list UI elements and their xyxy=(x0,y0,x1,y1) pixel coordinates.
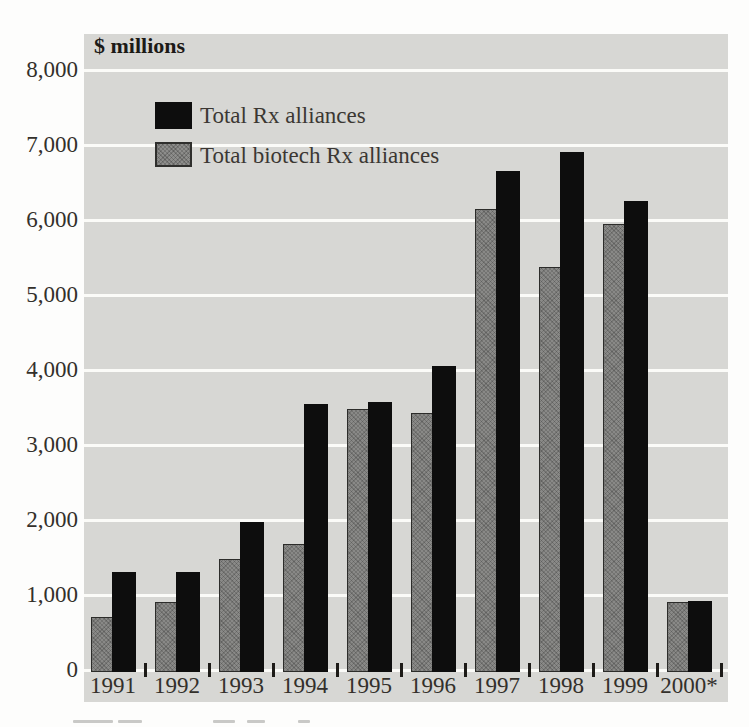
x-tick-label-1993: 1993 xyxy=(206,673,276,699)
cropped-text-fragment-3 xyxy=(247,720,265,723)
bar-total-rx-1991 xyxy=(112,572,136,672)
bar-biotech-rx-1995 xyxy=(347,409,369,672)
x-tick-label-1994: 1994 xyxy=(270,673,340,699)
bar-total-rx-1997 xyxy=(496,171,520,672)
y-tick-label-7000: 7,000 xyxy=(8,133,78,157)
y-tick-label-6000: 6,000 xyxy=(8,208,78,232)
x-tick-label-1999: 1999 xyxy=(590,673,660,699)
bar-total-rx-1994 xyxy=(304,404,328,672)
cropped-text-fragment-1 xyxy=(118,720,142,723)
bar-biotech-rx-1999 xyxy=(603,224,625,672)
bar-biotech-rx-1993 xyxy=(219,559,241,672)
legend-swatch-total-rx-icon xyxy=(155,102,192,129)
bar-biotech-rx-1997 xyxy=(475,209,497,672)
x-tick-label-1995: 1995 xyxy=(334,673,404,699)
legend-label-biotech-rx: Total biotech Rx alliances xyxy=(200,142,439,169)
x-tick-label-1998: 1998 xyxy=(526,673,596,699)
y-tick-label-5000: 5,000 xyxy=(8,283,78,307)
cropped-text-fragment-2 xyxy=(213,720,235,723)
legend-swatch-biotech-rx-icon xyxy=(155,142,192,167)
bar-biotech-rx-1994 xyxy=(283,544,305,672)
x-tick-label-2000: 2000* xyxy=(654,673,724,699)
bar-biotech-rx-1998 xyxy=(539,267,561,672)
cropped-text-fragment-0 xyxy=(73,720,113,723)
y-tick-label-4000: 4,000 xyxy=(8,358,78,382)
bar-total-rx-1998 xyxy=(560,152,584,672)
bar-total-rx-1999 xyxy=(624,201,648,672)
bar-total-rx-1993 xyxy=(240,522,264,672)
x-tick-label-1997: 1997 xyxy=(462,673,532,699)
x-tick-label-1996: 1996 xyxy=(398,673,468,699)
y-tick-label-3000: 3,000 xyxy=(8,433,78,457)
legend-label-total-rx: Total Rx alliances xyxy=(200,102,366,129)
bar-total-rx-2000 xyxy=(688,601,712,672)
bar-biotech-rx-1991 xyxy=(91,617,113,672)
y-axis-unit-label: $ millions xyxy=(94,33,185,59)
bar-biotech-rx-1996 xyxy=(411,413,433,672)
chart-figure: $ millions Total Rx alliances Total biot… xyxy=(0,0,749,727)
y-tick-label-8000: 8,000 xyxy=(8,58,78,82)
bar-biotech-rx-1992 xyxy=(155,602,177,672)
bar-total-rx-1995 xyxy=(368,402,392,672)
y-tick-label-0: 0 xyxy=(8,658,78,682)
bar-total-rx-1996 xyxy=(432,366,456,672)
x-tick-label-1992: 1992 xyxy=(142,673,212,699)
bar-biotech-rx-2000 xyxy=(667,602,689,672)
cropped-text-fragment-4 xyxy=(298,720,310,723)
bar-total-rx-1992 xyxy=(176,572,200,672)
gridline-8000 xyxy=(84,69,728,72)
x-tick-label-1991: 1991 xyxy=(78,673,148,699)
y-tick-label-1000: 1,000 xyxy=(8,583,78,607)
y-tick-label-2000: 2,000 xyxy=(8,508,78,532)
